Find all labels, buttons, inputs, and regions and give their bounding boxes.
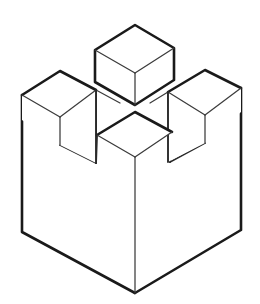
isometric-figure-canvas: Isometric cube composition Line drawing … — [0, 0, 260, 304]
isometric-cube-drawing — [0, 0, 260, 304]
